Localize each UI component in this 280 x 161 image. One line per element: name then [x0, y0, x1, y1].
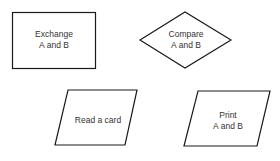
- print-label-line-2: A and B: [190, 121, 266, 132]
- flowchart-shapes: [0, 0, 280, 161]
- exchange-label-line-2: A and B: [12, 40, 96, 51]
- exchange-label: Exchange A and B: [12, 29, 96, 51]
- compare-label-line-2: A and B: [150, 40, 222, 51]
- read-card-label-line-1: Read a card: [60, 115, 136, 126]
- exchange-label-line-1: Exchange: [12, 29, 96, 40]
- compare-label-line-1: Compare: [150, 29, 222, 40]
- print-label-line-1: Print: [190, 110, 266, 121]
- read-card-label: Read a card: [60, 115, 136, 126]
- compare-label: Compare A and B: [150, 29, 222, 51]
- print-label: Print A and B: [190, 110, 266, 132]
